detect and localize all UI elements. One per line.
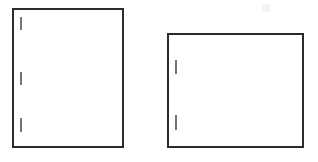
artifact-layer: [262, 4, 271, 12]
drawing-canvas: Line drawing of two plain rectangles wit…: [0, 0, 318, 162]
canvas-background: [0, 0, 318, 162]
faint-smudge: [262, 4, 271, 12]
two-rectangles-figure: [0, 0, 318, 162]
